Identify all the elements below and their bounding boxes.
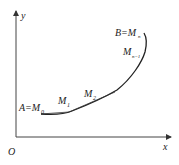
point-label-a: A=M 0 [18,102,44,115]
origin-label: O [8,146,15,157]
point-label-m2: M 2 [83,88,96,101]
svg-text:1: 1 [67,102,70,108]
curve-diagram: y x O A=M 0 M 1 M 2 M n−1 B=M n [0,0,179,165]
svg-text:n: n [138,34,141,39]
svg-text:M: M [122,46,132,57]
x-axis-label: x [162,141,168,152]
svg-text:M: M [83,88,93,99]
svg-text:n−1: n−1 [132,54,140,59]
point-label-m1: M 1 [57,95,70,108]
svg-text:M: M [57,95,67,106]
svg-text:A=M: A=M [18,102,41,113]
y-axis-label: y [20,10,26,21]
svg-text:2: 2 [93,95,96,101]
point-label-mn-1: M n−1 [122,46,140,59]
chord-polyline [41,92,115,114]
svg-text:0: 0 [41,109,44,115]
point-label-b: B=M n [115,27,141,39]
svg-text:B=M: B=M [115,27,137,38]
